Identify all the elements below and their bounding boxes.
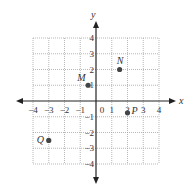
coordinate-plane: xy−4−3−2−1012344321−1−2−3−4MNPQ xyxy=(0,0,191,191)
x-tick-label: −2 xyxy=(60,105,70,115)
point-label-q: Q xyxy=(37,134,45,145)
y-tick-label: −2 xyxy=(84,128,94,138)
y-axis-label: y xyxy=(90,9,96,20)
point-label-p: P xyxy=(131,105,138,116)
y-axis-arrow-down-icon xyxy=(93,177,99,184)
point-label-m: M xyxy=(76,72,86,83)
point-n xyxy=(117,67,122,72)
y-tick-label: −3 xyxy=(84,143,94,153)
x-tick-label: 0 xyxy=(100,105,105,115)
x-axis-arrow-right-icon xyxy=(169,98,176,104)
point-q xyxy=(46,138,51,143)
y-tick-label: 3 xyxy=(90,49,95,59)
point-label-n: N xyxy=(116,55,125,66)
y-tick-label: 4 xyxy=(90,33,95,43)
x-tick-label: −4 xyxy=(28,105,38,115)
point-p xyxy=(125,110,130,115)
x-tick-label: 4 xyxy=(157,105,162,115)
point-m xyxy=(86,83,91,88)
x-axis-arrow-left-icon xyxy=(16,98,23,104)
x-tick-label: 1 xyxy=(110,105,115,115)
x-tick-label: 3 xyxy=(141,105,146,115)
y-axis-arrow-up-icon xyxy=(93,21,99,28)
x-axis-label: x xyxy=(178,95,184,106)
y-tick-label: −4 xyxy=(84,159,94,169)
x-tick-label: −3 xyxy=(44,105,54,115)
y-tick-label: 2 xyxy=(90,65,95,75)
y-tick-label: −1 xyxy=(84,112,94,122)
